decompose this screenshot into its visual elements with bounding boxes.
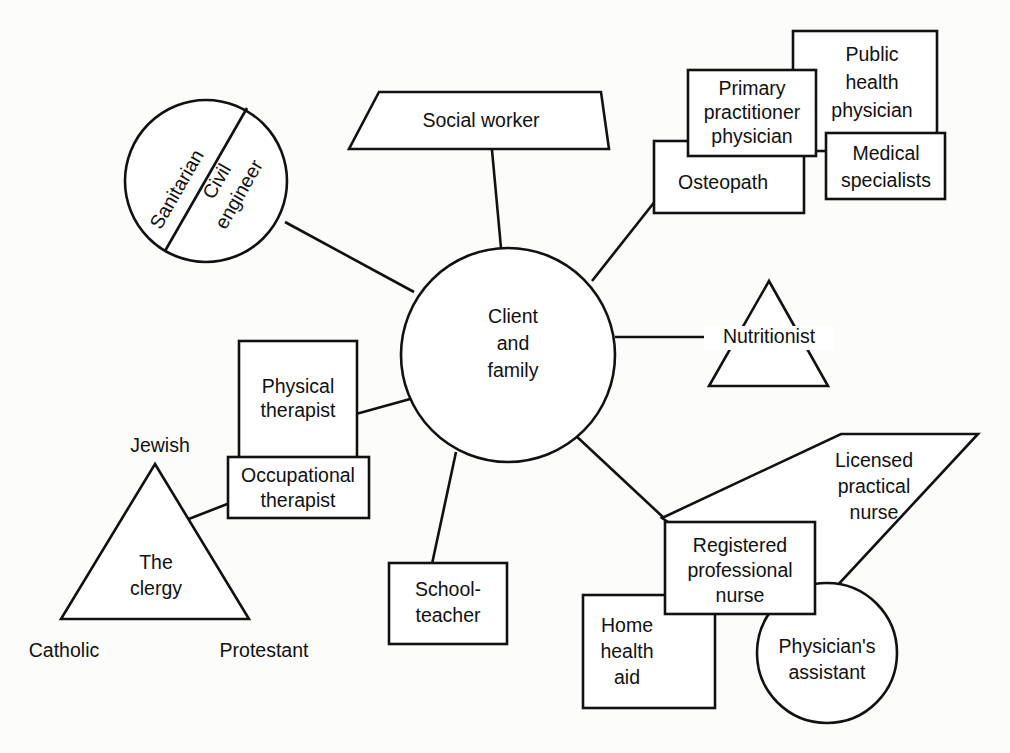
physical-therapist-node[interactable]: Physical therapist — [239, 341, 357, 460]
occupational-therapist-label-line2: therapist — [261, 489, 336, 511]
client-and-family-label-line3: family — [488, 359, 539, 381]
nutritionist-node[interactable]: Nutritionist — [704, 281, 834, 386]
clergy-label-line1: The — [139, 551, 173, 573]
registered-professional-nurse-node[interactable]: Registered professional nurse — [665, 522, 815, 614]
sanitarian-civil-engineer-node[interactable]: Sanitarian Civil engineer — [125, 100, 287, 262]
primary-practitioner-physician-node[interactable]: Primary practitioner physician — [688, 70, 816, 156]
public-health-physician-label-line2: health — [845, 71, 898, 93]
public-health-physician-label-line3: physician — [831, 99, 912, 121]
client-and-family-circle — [401, 248, 615, 462]
schoolteacher-node[interactable]: School- teacher — [389, 563, 507, 644]
schoolteacher-label-line2: teacher — [415, 604, 481, 626]
connector-client-to-engineer-circle — [285, 222, 414, 292]
physicians-assistant-label-line1: Physician's — [779, 635, 876, 657]
primary-practitioner-label-line1: Primary — [718, 77, 785, 99]
medical-specialists-node[interactable]: Medical specialists — [826, 133, 945, 199]
osteopath-label: Osteopath — [678, 171, 768, 193]
registered-nurse-label-line3: nurse — [716, 584, 765, 606]
connector-client-to-osteopath — [592, 200, 656, 281]
licensed-practical-nurse-label-line2: practical — [838, 475, 911, 497]
connector-client-to-schoolteacher — [432, 452, 456, 564]
home-health-aid-label-line3: aid — [614, 666, 640, 688]
physicians-assistant-label-line2: assistant — [789, 661, 867, 683]
team-relationship-diagram: Sanitarian Civil engineer Social worker … — [0, 0, 1010, 753]
social-worker-label: Social worker — [422, 109, 540, 131]
primary-practitioner-label-line3: physician — [711, 125, 792, 147]
client-and-family-label-line2: and — [497, 332, 530, 354]
licensed-practical-nurse-label-line1: Licensed — [835, 449, 913, 471]
physical-therapist-label-line2: therapist — [261, 399, 336, 421]
registered-nurse-label-line2: professional — [687, 559, 792, 581]
clergy-vertex-label-jewish: Jewish — [130, 434, 190, 456]
client-and-family-node[interactable]: Client and family — [401, 248, 615, 462]
nutritionist-label: Nutritionist — [723, 325, 816, 347]
clergy-vertex-label-catholic: Catholic — [29, 639, 100, 661]
medical-specialists-label-line1: Medical — [852, 142, 919, 164]
licensed-practical-nurse-label-line3: nurse — [850, 501, 899, 523]
physical-therapist-label-line1: Physical — [262, 375, 335, 397]
client-and-family-label-line1: Client — [488, 305, 538, 327]
registered-nurse-label-line1: Registered — [693, 534, 787, 556]
occupational-therapist-label-line1: Occupational — [241, 464, 355, 486]
social-worker-node[interactable]: Social worker — [349, 92, 609, 149]
clergy-vertex-label-protestant: Protestant — [220, 639, 309, 661]
primary-practitioner-label-line2: practitioner — [704, 101, 801, 123]
schoolteacher-label-line1: School- — [415, 578, 481, 600]
occupational-therapist-node[interactable]: Occupational therapist — [228, 457, 369, 518]
clergy-label-line2: clergy — [130, 577, 182, 599]
public-health-physician-label-line1: Public — [845, 43, 898, 65]
home-health-aid-label-line2: health — [600, 640, 653, 662]
diagram-canvas-container: Sanitarian Civil engineer Social worker … — [0, 0, 1010, 753]
medical-specialists-label-line2: specialists — [841, 169, 931, 191]
home-health-aid-label-line1: Home — [601, 614, 653, 636]
connector-client-to-social-worker — [492, 150, 501, 248]
